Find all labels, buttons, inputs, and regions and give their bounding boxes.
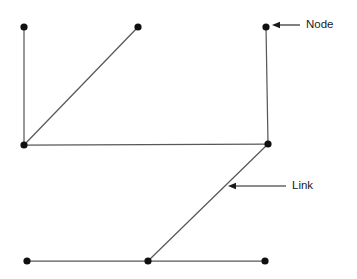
annotation-link: Link xyxy=(228,179,313,191)
node-dot xyxy=(23,257,30,264)
link-edge xyxy=(266,27,268,144)
link-edge xyxy=(148,144,268,261)
diagram-canvas: NodeLink xyxy=(0,0,357,279)
link-edge xyxy=(24,27,138,145)
annotation-node: Node xyxy=(272,18,334,30)
node-dot xyxy=(261,257,268,264)
node-dot xyxy=(134,23,141,30)
annotation-label: Link xyxy=(292,179,313,191)
node-dot xyxy=(262,23,269,30)
node-dot xyxy=(20,23,27,30)
links-layer xyxy=(24,27,268,261)
link-edge xyxy=(24,144,268,145)
node-dot xyxy=(20,141,27,148)
arrow-head-icon xyxy=(228,183,236,189)
annotation-label: Node xyxy=(306,18,334,30)
network-diagram: NodeLink xyxy=(0,0,357,279)
arrow-head-icon xyxy=(272,22,280,28)
node-dot xyxy=(144,257,151,264)
node-dot xyxy=(264,140,271,147)
annotations-layer: NodeLink xyxy=(228,18,334,191)
